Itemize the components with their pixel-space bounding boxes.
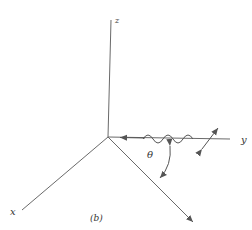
angle-arc-icon [160, 146, 170, 178]
z-axis [108, 20, 111, 137]
angle-label: θ [147, 149, 153, 160]
wave-icon [143, 135, 193, 143]
coordinate-diagram: z y x θ (b) [0, 0, 252, 230]
z-axis-label: z [114, 16, 120, 25]
x-axis [22, 137, 108, 210]
y-axis-label: y [240, 134, 247, 145]
figure-caption: (b) [90, 213, 103, 223]
incident-arrow-icon [120, 138, 145, 139]
x-axis-label: x [10, 206, 16, 217]
